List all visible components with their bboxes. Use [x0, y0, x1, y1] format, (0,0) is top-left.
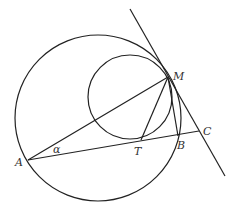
label-point-A: A: [14, 156, 23, 169]
label-point-B: B: [176, 139, 185, 152]
label-point-T: T: [134, 145, 143, 158]
geometry-diagram: M A T B C α: [0, 0, 238, 218]
label-point-M: M: [172, 70, 185, 83]
label-point-C: C: [203, 125, 212, 138]
label-angle-alpha: α: [53, 143, 61, 156]
segment-MB: [168, 77, 178, 136]
